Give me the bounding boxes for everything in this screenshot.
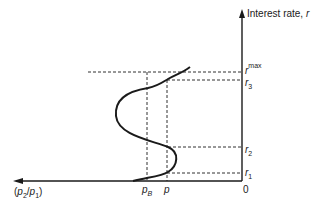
- r1-label: r1: [245, 168, 252, 178]
- r3-sub: 3: [248, 83, 252, 90]
- y-axis-label-var: r: [306, 8, 309, 19]
- reswitching-diagram: [0, 0, 322, 219]
- y-axis-label: Interest rate, r: [247, 9, 309, 19]
- x-axis-arrow-icon: [13, 178, 23, 184]
- origin-label: 0: [243, 185, 249, 195]
- x-axis-label: (p2/p1): [14, 187, 42, 197]
- r1-sub: 1: [248, 173, 252, 180]
- pB-label: pB: [142, 185, 152, 195]
- p-label: p: [164, 185, 170, 195]
- wage-profit-curve: [116, 67, 190, 181]
- pB-sub: B: [148, 190, 153, 197]
- r2-label: r2: [245, 145, 252, 155]
- r3-label: r3: [245, 78, 252, 88]
- r2-sub: 2: [248, 150, 252, 157]
- p-base: p: [164, 184, 170, 195]
- rmax-sup: max: [248, 62, 261, 69]
- y-axis-arrow-icon: [239, 9, 245, 18]
- y-axis-label-text: Interest rate,: [247, 8, 306, 19]
- rmax-label: rmax: [245, 66, 262, 76]
- x-label-close: ): [39, 186, 42, 197]
